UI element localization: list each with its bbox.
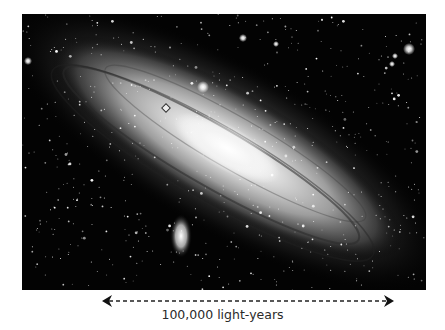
satellite-galaxy	[170, 214, 192, 258]
galaxy-photo	[22, 14, 426, 290]
scale-label: 100,000 light-years	[0, 307, 445, 322]
galaxy-image	[22, 14, 426, 290]
